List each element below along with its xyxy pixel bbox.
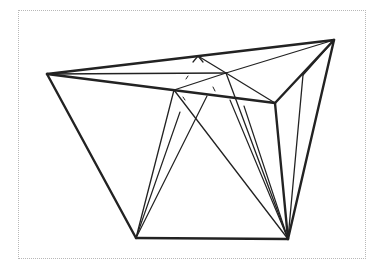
edge-AF	[47, 73, 226, 74]
diagram-canvas	[0, 0, 386, 272]
hatch-mark	[186, 76, 188, 79]
edge-FG	[174, 73, 226, 90]
hatch-mark	[213, 87, 215, 91]
polyhedron-diagram	[0, 0, 386, 272]
outline-edge-DE	[136, 238, 288, 239]
edge-HF	[198, 56, 226, 73]
outline-edge-AB	[47, 40, 334, 74]
edge-GD	[136, 90, 174, 238]
outline-edge-AC	[47, 74, 275, 103]
hatch-marks	[183, 76, 215, 100]
hatch-mark	[183, 97, 185, 100]
fan-line	[136, 112, 180, 238]
outline-edge-AD	[47, 74, 136, 238]
fan-line	[136, 96, 207, 238]
edge-RE	[288, 75, 303, 239]
fan-line	[230, 100, 288, 239]
outline-edge-BE	[288, 40, 334, 239]
edge-GE	[174, 90, 288, 239]
